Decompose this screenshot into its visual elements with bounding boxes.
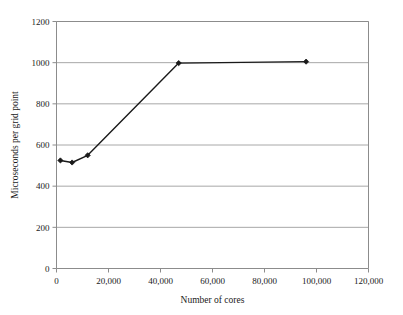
y-tick-label-1200: 1200 xyxy=(32,17,51,27)
x-tick-label-100000: 100,000 xyxy=(302,276,332,286)
y-tick-label-600: 600 xyxy=(36,140,50,150)
x-tick-label-120000: 120,000 xyxy=(354,276,384,286)
x-axis-title: Number of cores xyxy=(181,295,245,305)
x-tick-label-80000: 80,000 xyxy=(252,276,277,286)
line-chart: 020040060080010001200020,00040,00060,000… xyxy=(0,0,403,315)
y-tick-label-800: 800 xyxy=(36,99,50,109)
y-tick-label-0: 0 xyxy=(45,264,50,274)
y-tick-label-1000: 1000 xyxy=(32,58,51,68)
chart-figure: 020040060080010001200020,00040,00060,000… xyxy=(0,0,403,315)
x-tick-label-60000: 60,000 xyxy=(200,276,225,286)
y-tick-label-400: 400 xyxy=(36,181,50,191)
x-tick-label-0: 0 xyxy=(54,276,59,286)
x-tick-label-40000: 40,000 xyxy=(148,276,173,286)
x-tick-label-20000: 20,000 xyxy=(96,276,121,286)
y-axis-title: Microseconds per grid point xyxy=(10,91,20,199)
y-tick-label-200: 200 xyxy=(36,223,50,233)
